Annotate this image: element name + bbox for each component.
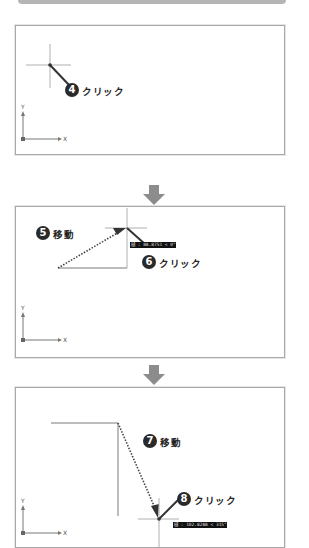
cad-viewport-step-1: Y X 4 クリック bbox=[15, 25, 285, 155]
y-axis-label: Y bbox=[21, 103, 25, 110]
x-axis-label: X bbox=[63, 135, 67, 142]
ucs-icon bbox=[21, 111, 62, 141]
crosshair-cursor bbox=[105, 208, 147, 268]
previous-panel-edge bbox=[18, 0, 286, 4]
drawing-canvas bbox=[16, 388, 284, 547]
step-label-click: クリック bbox=[82, 84, 124, 98]
step-label-click: クリック bbox=[159, 256, 201, 270]
ucs-icon bbox=[21, 312, 62, 342]
leader-line bbox=[50, 65, 69, 85]
y-axis-label: Y bbox=[21, 304, 25, 311]
coordinate-tooltip: 極 : 88.8751 < 0° bbox=[130, 242, 176, 248]
x-axis-label: X bbox=[63, 529, 67, 536]
y-axis-label: Y bbox=[21, 497, 25, 504]
step-label-move: 移動 bbox=[160, 435, 181, 449]
move-arrowhead bbox=[151, 504, 159, 518]
step-label-move: 移動 bbox=[53, 227, 74, 241]
cad-viewport-step-2: 極 : 88.8751 < 0° 5 移動 6 クリック Y X bbox=[15, 206, 285, 358]
step-badge-6: 6 bbox=[142, 255, 156, 269]
ucs-icon bbox=[21, 505, 62, 535]
x-axis-label: X bbox=[63, 336, 67, 343]
step-badge-7: 7 bbox=[143, 434, 157, 448]
down-arrow-icon bbox=[143, 185, 165, 205]
step-label-click: クリック bbox=[194, 493, 236, 507]
step-badge-8: 8 bbox=[177, 492, 191, 506]
click-point bbox=[157, 517, 161, 521]
leader-line bbox=[159, 500, 178, 519]
step-badge-5: 5 bbox=[36, 226, 50, 240]
cad-viewport-step-3: 極 : 102.8288 < 315° 7 移動 8 クリック Y X bbox=[15, 387, 285, 548]
drawing-canvas bbox=[16, 26, 284, 154]
coordinate-tooltip: 極 : 102.8288 < 315° bbox=[173, 522, 227, 528]
step-badge-4: 4 bbox=[65, 83, 79, 97]
down-arrow-icon bbox=[143, 365, 165, 385]
click-point bbox=[48, 63, 52, 67]
